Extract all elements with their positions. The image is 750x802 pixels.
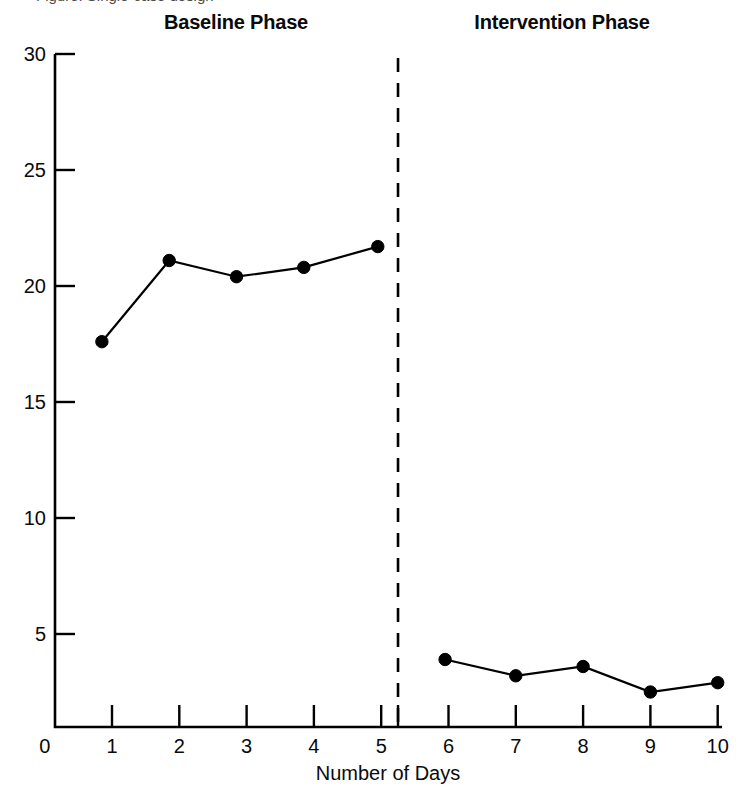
x-tick-label: 3 [241,735,252,758]
y-tick-label: 5 [35,623,46,646]
data-point [372,240,384,252]
y-tick-label: 10 [24,507,46,530]
data-point [577,660,589,672]
plot-area [0,0,750,802]
y-tick-label: 25 [24,159,46,182]
x-tick-label: 10 [707,735,729,758]
axis-spine [55,54,722,727]
x-tick-label: 7 [510,735,521,758]
x-tick-label: 9 [645,735,656,758]
x-tick-label: 1 [106,735,117,758]
y-tick-label: 20 [24,275,46,298]
data-point [510,670,522,682]
x-tick-label: 6 [443,735,454,758]
data-point [644,686,656,698]
x-axis-title: Number of Days [316,762,461,785]
x-tick-label: 5 [376,735,387,758]
data-point [439,653,451,665]
series-line-baseline [102,247,378,342]
chart-figure: Figure: Single-case design Baseline Phas… [0,0,750,802]
x-tick-label: 2 [174,735,185,758]
data-point [163,254,175,266]
data-point [712,677,724,689]
x-tick-label: 8 [578,735,589,758]
data-point [298,261,310,273]
y-tick-label: 30 [24,43,46,66]
data-point [96,336,108,348]
x-tick-label: 4 [308,735,319,758]
x-tick-label: 0 [39,735,50,758]
y-tick-label: 15 [24,391,46,414]
data-point [230,271,242,283]
